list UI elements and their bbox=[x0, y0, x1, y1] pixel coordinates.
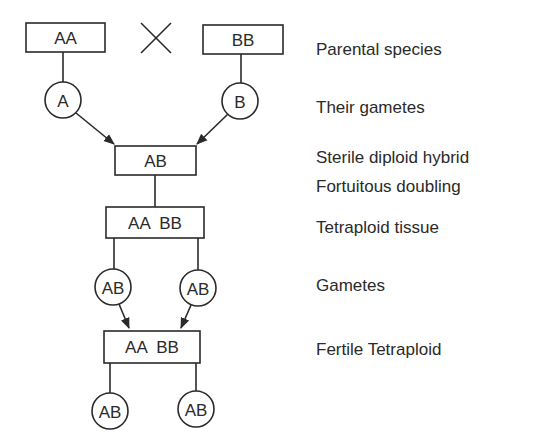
label-parental-species: Parental species bbox=[316, 40, 442, 60]
label-tetraploid-tissue: Tetraploid tissue bbox=[316, 218, 439, 238]
offspring-gamete-right-text: AB bbox=[185, 401, 208, 420]
gamete-b-text: B bbox=[234, 93, 245, 112]
parent-bb-text: BB bbox=[232, 31, 255, 50]
label-fertile-tetraploid: Fertile Tetraploid bbox=[316, 340, 441, 360]
label-fortuitous-doubling: Fortuitous doubling bbox=[316, 177, 461, 197]
parent-aa-text: AA bbox=[54, 29, 77, 48]
gamete-a-text: A bbox=[57, 92, 69, 111]
label-gametes: Gametes bbox=[316, 276, 385, 296]
tetraploid-gamete-left-text: AB bbox=[102, 279, 125, 298]
tetraploid-tissue-text: AA BB bbox=[128, 214, 182, 233]
cross-icon bbox=[141, 23, 171, 53]
label-their-gametes: Their gametes bbox=[316, 98, 425, 118]
offspring-gamete-left-text: AB bbox=[99, 403, 122, 422]
allopolyploidy-diagram: AA BB A B AB AA BB AB AB AA BB AB AB bbox=[0, 0, 540, 446]
tetraploid-gamete-right-text: AB bbox=[187, 280, 210, 299]
hybrid-ab-text: AB bbox=[144, 152, 167, 171]
label-sterile-hybrid: Sterile diploid hybrid bbox=[316, 148, 469, 168]
fertile-tetraploid-text: AA BB bbox=[125, 338, 179, 357]
